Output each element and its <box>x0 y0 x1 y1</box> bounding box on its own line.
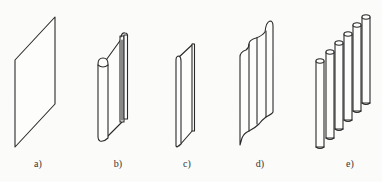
figure-drawing <box>0 0 382 182</box>
rod-3 <box>335 41 343 131</box>
panel-e-rod-array <box>316 15 370 149</box>
figure-canvas: a) b) c) d) e) <box>0 0 382 182</box>
rod-5 <box>353 23 361 113</box>
rod-6 <box>362 15 370 105</box>
rod-4 <box>344 32 352 122</box>
rod-1 <box>316 59 324 149</box>
panel-c-narrow-plate <box>176 44 195 147</box>
panel-a-label: a) <box>34 158 42 169</box>
rod-2 <box>326 50 334 140</box>
panel-b-rolled-plate <box>98 33 128 141</box>
panel-b-label: b) <box>114 158 122 169</box>
panel-d-label: d) <box>256 158 264 169</box>
panel-e-label: e) <box>346 158 354 169</box>
panel-a-flat-plate <box>15 17 55 147</box>
panel-c-label: c) <box>183 158 191 169</box>
panel-d-corrugated-plate <box>240 21 273 145</box>
